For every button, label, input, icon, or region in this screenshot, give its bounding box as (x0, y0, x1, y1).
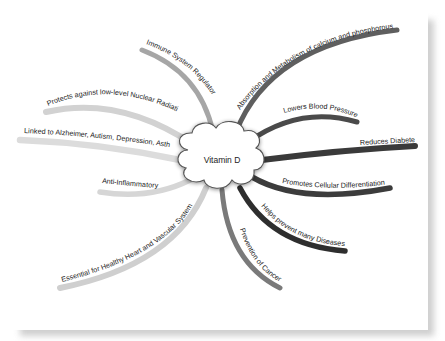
center-label: Vitamin D (204, 155, 241, 165)
label-heart: Essential for Healthy Heart and Vascular… (60, 202, 194, 284)
mindmap-canvas: Vitamin D Immune System Regulator Absorp… (0, 0, 445, 341)
label-anti-inflammatory: Anti-Inflammatory (102, 176, 159, 190)
label-cellular: Promotes Cellular Differentiation (282, 176, 386, 190)
label-alzheimer: Linked to Alzheimer, Autism, Depression,… (0, 0, 171, 149)
branch-diabetes (262, 146, 415, 160)
label-immune: Immune System Regulator (145, 37, 218, 96)
branch-blood-pressure (248, 117, 357, 142)
